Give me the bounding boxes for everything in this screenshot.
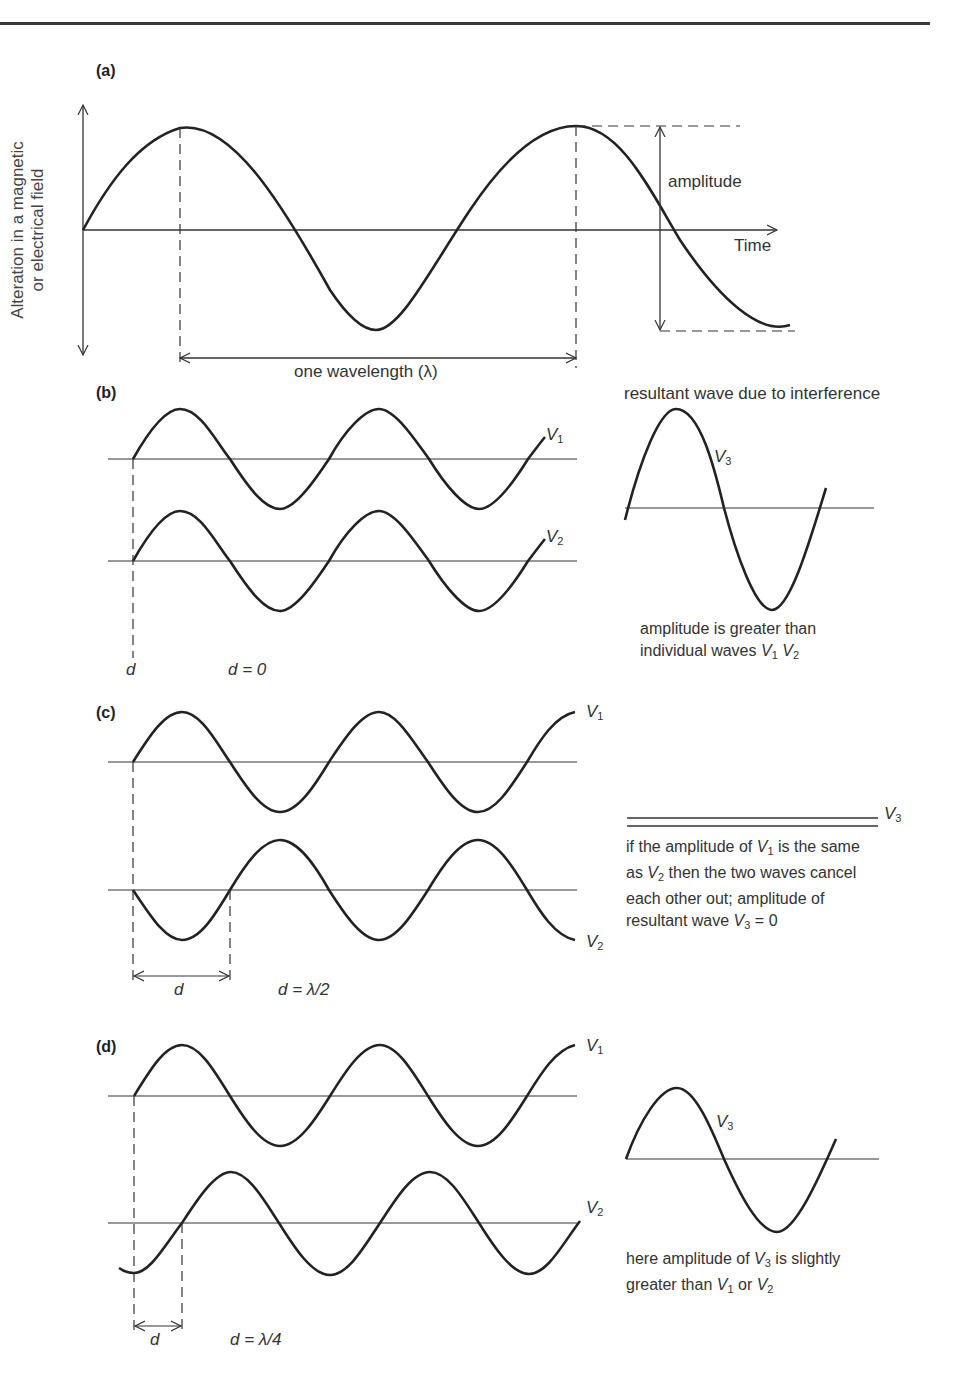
panel-b-label: (b)	[96, 384, 116, 402]
label-b-v2: V2	[546, 527, 563, 547]
wavelength-label: one wavelength (λ)	[294, 362, 438, 382]
label-c-v1: V1	[586, 702, 603, 722]
time-axis-label: Time	[734, 236, 771, 256]
label-b-v3: V3	[714, 447, 731, 467]
y-axis-label-line2: or electrical field	[28, 141, 48, 319]
equation-d: d = λ/4	[230, 1330, 281, 1350]
note-b: amplitude is greater than individual wav…	[640, 618, 816, 666]
resultant-title: resultant wave due to interference	[624, 384, 880, 404]
note-d: here amplitude of V3 is slightly greater…	[626, 1248, 840, 1300]
label-c-d: d	[174, 980, 183, 1000]
label-c-v2: V2	[586, 932, 603, 952]
panel-c-label: (c)	[96, 704, 116, 722]
label-d-v3: V3	[716, 1112, 733, 1132]
label-d-v2: V2	[586, 1198, 603, 1218]
panel-a	[83, 105, 795, 368]
wave-diagram	[0, 0, 964, 1398]
panel-d-label: (d)	[96, 1038, 116, 1056]
label-d-d: d	[150, 1330, 159, 1350]
note-c: if the amplitude of V1 is the same as V2…	[626, 836, 860, 936]
y-axis-label: Alteration in a magnetic or electrical f…	[8, 141, 48, 319]
y-axis-label-line1: Alteration in a magnetic	[8, 141, 28, 319]
label-d-v1: V1	[586, 1036, 603, 1056]
label-b-v1: V1	[546, 425, 563, 445]
amplitude-label: amplitude	[668, 172, 742, 192]
panel-a-label: (a)	[96, 62, 116, 80]
label-b-d: d	[126, 660, 135, 680]
wave-b-v3	[625, 409, 826, 610]
wave-d-v3	[626, 1088, 836, 1232]
equation-c: d = λ/2	[278, 980, 329, 1000]
wave-a	[83, 126, 790, 330]
equation-b: d = 0	[228, 660, 266, 680]
label-c-v3: V3	[884, 804, 901, 824]
